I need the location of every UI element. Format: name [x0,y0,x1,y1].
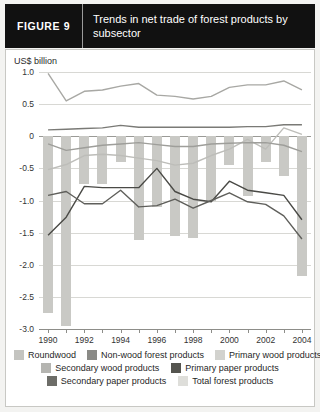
legend-swatch-icon [47,376,57,386]
x-axis-tick [175,329,176,333]
y-axis-tick-label: -3.0 [19,324,34,334]
x-axis-tick [284,329,285,333]
x-axis-tick [266,329,267,333]
x-axis-tick [139,329,140,333]
y-axis-tick-label: 1.0 [22,67,34,77]
y-axis-tick-label: 0 [29,131,34,141]
line-series [48,128,302,170]
figure-title: Trends in net trade of forest products b… [83,4,315,48]
x-axis: 19901992199419961998200020022004 [39,329,311,330]
x-axis-tick [157,329,158,333]
legend-label: Roundwood [28,350,76,360]
legend-row: Secondary paper products Total forest pr… [6,376,314,386]
legend-swatch-icon [87,350,97,360]
x-axis-tick [302,329,303,333]
legend-item-primary-paper-products: Primary paper products [171,363,279,373]
y-axis-tick-label: 0.5 [22,99,34,109]
x-axis-tick-label: 1998 [184,335,203,345]
chart-panel: US$ billion 1.00.50-0.5-1.0-1.5-2.0-2.5-… [5,49,315,407]
y-axis-tick-label: -0.5 [19,163,34,173]
y-axis-tick-label: -1.5 [19,228,34,238]
x-axis-tick [66,329,67,333]
x-axis-tick [211,329,212,333]
x-axis-tick [48,329,49,333]
legend-item-total-forest-products: Total forest products [178,376,273,386]
legend-row: Roundwood Non-wood forest products Prima… [6,350,314,360]
legend-swatch-icon [178,376,188,386]
x-axis-tick-label: 2000 [220,335,239,345]
figure-header: FIGURE 9 Trends in net trade of forest p… [5,4,315,48]
line-series-group [39,72,311,329]
plot-area: 1.00.50-0.5-1.0-1.5-2.0-2.5-3.0 [39,72,311,329]
x-axis-tick-label: 2004 [292,335,311,345]
y-axis-unit-label: US$ billion [14,56,57,66]
y-axis-tick-label: -2.0 [19,260,34,270]
legend-swatch-icon [14,350,24,360]
legend-row: Secondary wood products Primary paper pr… [6,363,314,373]
legend-swatch-icon [215,350,225,360]
legend-label: Secondary wood products [55,363,159,373]
line-series [48,73,302,101]
legend-label: Primary paper products [185,363,279,373]
x-axis-tick-label: 1990 [39,335,58,345]
y-axis-tick-label: -2.5 [19,292,34,302]
x-axis-tick [84,329,85,333]
x-axis-tick [121,329,122,333]
legend-swatch-icon [41,363,51,373]
legend-item-roundwood: Roundwood [14,350,76,360]
legend-item-secondary-paper-products: Secondary paper products [47,376,167,386]
legend-item-primary-wood-products: Primary wood products [215,350,320,360]
x-axis-tick-label: 1992 [75,335,94,345]
chart-legend: Roundwood Non-wood forest products Prima… [6,350,314,389]
legend-label: Total forest products [192,376,273,386]
figure-screenshot: FIGURE 9 Trends in net trade of forest p… [0,0,320,412]
legend-label: Primary wood products [229,350,320,360]
legend-label: Non-wood forest products [101,350,204,360]
line-series [48,125,302,130]
line-series [48,143,302,152]
x-axis-tick-label: 2002 [256,335,275,345]
x-axis-tick-label: 1996 [147,335,166,345]
x-axis-tick [229,329,230,333]
x-axis-tick [193,329,194,333]
legend-item-non-wood-forest-products: Non-wood forest products [87,350,204,360]
y-axis-tick-label: -1.0 [19,196,34,206]
x-axis-tick [102,329,103,333]
legend-item-secondary-wood-products: Secondary wood products [41,363,159,373]
line-series [48,168,302,235]
x-axis-tick [248,329,249,333]
figure-number-tag: FIGURE 9 [5,4,83,48]
x-axis-tick-label: 1994 [111,335,130,345]
legend-swatch-icon [171,363,181,373]
line-series [48,190,302,239]
legend-label: Secondary paper products [61,376,167,386]
